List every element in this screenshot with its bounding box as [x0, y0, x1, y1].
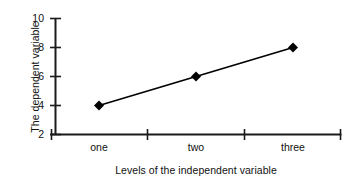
plot-area [0, 0, 354, 183]
x-axis-title: Levels of the independent variable [50, 164, 342, 176]
y-axis-title: The dependent variable [26, 12, 44, 142]
chart-figure: 10 8 6 4 2 one two three The dependent v… [0, 0, 354, 183]
data-point-marker [94, 101, 104, 111]
data-point-marker [191, 72, 201, 82]
x-tick-label-two: two [161, 142, 231, 153]
data-point-marker [288, 43, 298, 53]
x-tick-label-one: one [64, 142, 134, 153]
x-tick-label-three: three [258, 142, 328, 153]
